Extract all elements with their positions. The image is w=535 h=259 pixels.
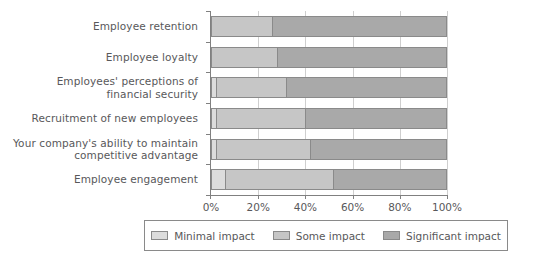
bar-segment bbox=[277, 47, 447, 68]
x-axis-tick-label: 40% bbox=[294, 201, 317, 213]
legend-item[interactable]: Minimal impact bbox=[151, 230, 255, 242]
bar-row bbox=[211, 169, 447, 190]
bar-segment bbox=[211, 47, 278, 68]
bar-segment bbox=[333, 169, 447, 190]
legend-swatch-icon bbox=[273, 231, 290, 240]
bar-segment bbox=[272, 16, 447, 37]
category-label: Employees' perceptions of financial secu… bbox=[57, 75, 198, 100]
stacked-bar-chart: Employee retentionEmployee loyaltyEmploy… bbox=[0, 0, 535, 259]
category-label: Employee retention bbox=[93, 20, 198, 33]
category-label: Employee loyalty bbox=[106, 51, 198, 64]
x-axis-tick bbox=[447, 195, 448, 199]
legend-label: Some impact bbox=[296, 230, 365, 242]
category-label: Employee engagement bbox=[74, 173, 198, 186]
legend-swatch-icon bbox=[383, 231, 400, 240]
x-axis-tick bbox=[305, 195, 306, 199]
category-axis-labels: Employee retentionEmployee loyaltyEmploy… bbox=[0, 11, 205, 195]
bar-row bbox=[211, 77, 447, 98]
y-axis-tick bbox=[206, 42, 211, 43]
y-axis-tick bbox=[206, 134, 211, 135]
bar-segment bbox=[216, 77, 288, 98]
x-axis-tick bbox=[353, 195, 354, 199]
bar-segment bbox=[225, 169, 334, 190]
gridline bbox=[400, 11, 401, 195]
plot-area: 0%20%40%60%80%100% bbox=[211, 11, 447, 195]
legend-label: Significant impact bbox=[406, 230, 501, 242]
bar-row bbox=[211, 108, 447, 129]
category-label: Recruitment of new employees bbox=[32, 112, 198, 125]
x-axis-tick bbox=[258, 195, 259, 199]
y-axis-tick bbox=[206, 164, 211, 165]
bar-segment bbox=[286, 77, 447, 98]
gridline bbox=[353, 11, 354, 195]
gridline bbox=[258, 11, 259, 195]
y-axis-tick bbox=[206, 72, 211, 73]
bar-row bbox=[211, 47, 447, 68]
bar-row bbox=[211, 16, 447, 37]
chart-legend: Minimal impactSome impactSignificant imp… bbox=[144, 220, 508, 251]
legend-label: Minimal impact bbox=[174, 230, 255, 242]
x-axis-tick-label: 0% bbox=[203, 201, 220, 213]
y-axis-tick bbox=[206, 11, 211, 12]
gridline bbox=[305, 11, 306, 195]
bar-segment bbox=[216, 139, 311, 160]
x-axis-tick-label: 100% bbox=[432, 201, 462, 213]
y-axis-tick bbox=[206, 103, 211, 104]
x-axis-tick-label: 20% bbox=[247, 201, 270, 213]
legend-swatch-icon bbox=[151, 231, 168, 240]
bar-segment bbox=[211, 169, 226, 190]
x-axis-tick-label: 80% bbox=[388, 201, 411, 213]
y-axis-tick bbox=[206, 195, 211, 196]
x-axis-line bbox=[210, 195, 447, 196]
bar-segment bbox=[310, 139, 447, 160]
bar-row bbox=[211, 139, 447, 160]
legend-item[interactable]: Some impact bbox=[273, 230, 365, 242]
x-axis-tick bbox=[400, 195, 401, 199]
gridline bbox=[447, 11, 448, 195]
bar-segment bbox=[211, 16, 273, 37]
bar-segment bbox=[216, 108, 306, 129]
x-axis-tick-label: 60% bbox=[341, 201, 364, 213]
legend-item[interactable]: Significant impact bbox=[383, 230, 501, 242]
bar-segment bbox=[305, 108, 447, 129]
category-label: Your company's ability to maintain compe… bbox=[13, 137, 198, 162]
